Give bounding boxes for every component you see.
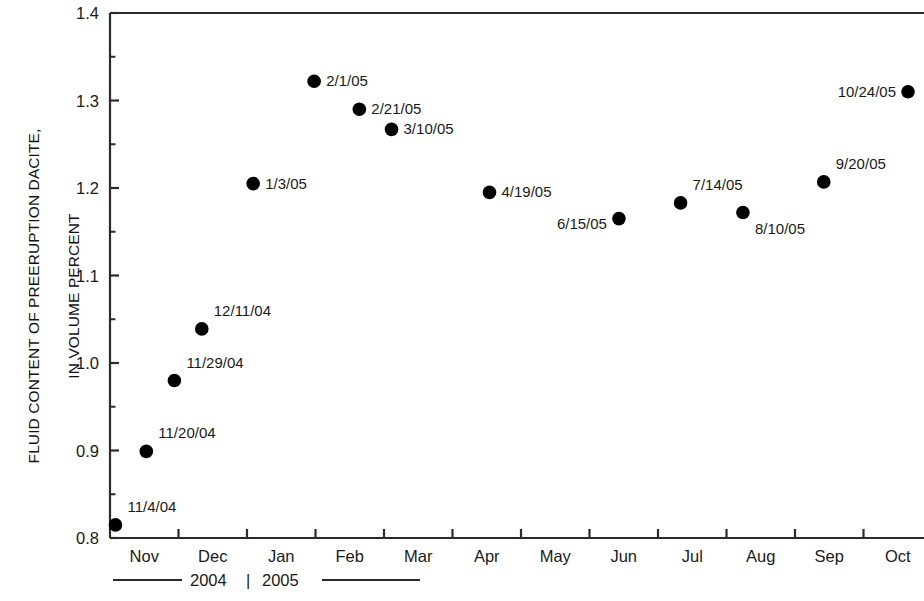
data-point[interactable]: [385, 123, 399, 137]
year-label-2004: 2004: [190, 571, 227, 589]
x-tick-label: Oct: [885, 547, 911, 565]
data-point-label: 8/10/05: [755, 220, 805, 237]
data-point[interactable]: [736, 206, 750, 220]
data-point[interactable]: [483, 186, 497, 200]
data-point-label: 1/3/05: [265, 175, 307, 192]
x-tick-label: Feb: [336, 547, 364, 565]
data-point[interactable]: [307, 74, 321, 88]
data-point-label: 6/15/05: [557, 215, 607, 232]
x-tick-label: Sep: [815, 547, 844, 565]
data-point-label: 7/14/05: [693, 176, 743, 193]
data-point[interactable]: [901, 85, 915, 99]
data-point[interactable]: [168, 374, 182, 388]
x-tick-label: Mar: [404, 547, 433, 565]
data-point-label: 2/21/05: [371, 100, 421, 117]
x-tick-label: Jun: [610, 547, 637, 565]
data-point[interactable]: [674, 196, 688, 210]
y-tick-label: 1.4: [76, 4, 99, 22]
data-point-label: 12/11/04: [214, 302, 271, 319]
data-point-label: 10/24/05: [838, 83, 896, 100]
data-point-label: 3/10/05: [404, 120, 454, 137]
data-point[interactable]: [612, 212, 626, 226]
data-point-label: 11/4/04: [127, 498, 176, 515]
data-point-label: 9/20/05: [836, 155, 886, 172]
x-tick-label: Jul: [682, 547, 703, 565]
scatter-plot: 1.41.31.21.11.00.90.8NovDecJanFebMarAprM…: [0, 0, 924, 601]
y-axis-title-line1: FLUID CONTENT OF PREERUPTION DACITE,: [24, 46, 44, 546]
y-axis-title: FLUID CONTENT OF PREERUPTION DACITE, IN …: [4, 46, 104, 546]
data-point[interactable]: [353, 102, 367, 116]
data-point-label: 2/1/05: [326, 72, 368, 89]
x-tick-label: Dec: [198, 547, 227, 565]
data-point[interactable]: [140, 445, 154, 459]
data-point-label: 11/29/04: [186, 354, 243, 371]
data-point-label: 11/20/04: [158, 424, 215, 441]
data-point[interactable]: [246, 177, 260, 191]
data-point[interactable]: [817, 175, 831, 189]
x-tick-label: May: [540, 547, 572, 565]
x-tick-label: Apr: [474, 547, 500, 565]
y-axis-title-line2: IN VOLUME PERCENT: [64, 46, 84, 546]
chart-figure: FLUID CONTENT OF PREERUPTION DACITE, IN …: [0, 0, 924, 601]
year-label-2005: 2005: [262, 571, 299, 589]
x-tick-label: Jan: [268, 547, 295, 565]
data-point-label: 4/19/05: [501, 183, 551, 200]
x-tick-label: Nov: [130, 547, 160, 565]
x-tick-label: Aug: [746, 547, 775, 565]
year-separator: |: [246, 571, 250, 589]
data-point[interactable]: [195, 322, 209, 336]
data-point[interactable]: [109, 518, 123, 532]
